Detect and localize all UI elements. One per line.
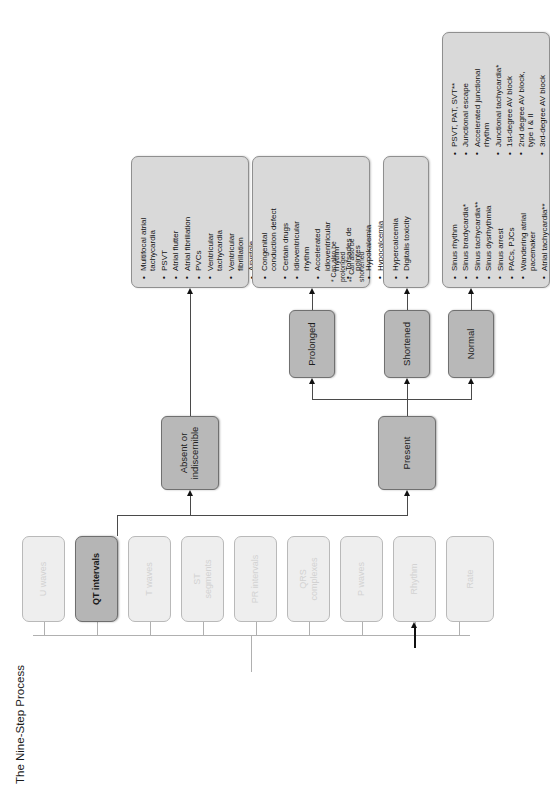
category-label: Present [402,437,413,470]
subcategory-label: Prolonged [307,322,318,365]
step-label: U waves [38,562,48,597]
step-label: QRS complexes [298,557,319,600]
step-box-qt-intervals[interactable]: QT intervals [75,536,118,622]
category-label: Absent or indiscernible [179,427,201,480]
shortened-list-line [407,292,408,310]
branch-normal-arrowhead [468,378,474,384]
prolonged-list: Congenital conduction defectCertain drug… [260,165,387,279]
footnote-shortened: ** Can also be shortened [347,192,365,282]
step-bus-line [33,635,470,636]
list-box-shortened: HypercalcemiaDigitalis toxicity [383,156,429,288]
list-item: 1st-degree AV block [505,41,514,155]
list-item: Congenital conduction defect [260,165,279,279]
step-stub [362,622,363,636]
list-item: PSVT [160,165,169,279]
list-item: Atrial flutter [171,165,180,279]
list-item: Certain drugs [281,165,290,279]
absent-list: Multifocal atrial tachycardiaPSVTAtrial … [139,165,259,279]
qt-split-line [117,515,408,516]
list-item: Junctional tachycardia* [494,41,503,155]
list-item: Sinus dysrhythmia [484,165,493,279]
step-box-pr-intervals[interactable]: PR intervals [234,536,277,622]
list-item: Idioventricular rhythm [292,165,311,279]
list-item: Hypokalemia [364,165,373,279]
step-stub [97,622,98,636]
shortened-list: HypercalcemiaDigitalis toxicity [391,165,414,279]
list-item: 3rd-degree AV block [538,41,547,155]
step-label: ST segments [192,559,213,598]
prolonged-list-arrowhead [309,288,315,294]
step-label: T waves [144,562,154,595]
list-item: PACs, PJCs [507,165,516,279]
qt-highlight-line [414,626,416,648]
normal-list-arrowhead [468,288,474,294]
step-box-qrs-complexes[interactable]: QRS complexes [287,536,330,622]
list-item: Junctional escape [461,41,470,155]
list-box-absent-or-indiscernible: Multifocal atrial tachycardiaPSVTAtrial … [131,156,249,288]
list-item: Sinus tachycardia** [473,165,482,279]
list-item: Ventricular tachycardia [206,165,225,279]
step-label: P waves [356,562,366,596]
list-item: Multifocal atrial tachycardia [139,165,158,279]
list-box-normal: Sinus rhythmSinus bradycardia*Sinus tach… [442,32,550,288]
list-item: Atrial tachycardia** [540,165,549,279]
normal-list-line [471,292,472,310]
step-label: QT intervals [91,553,101,605]
branch-absent-line [190,494,191,516]
step-box-st-segments[interactable]: ST segments [181,536,224,622]
step-stub [256,622,257,636]
step-box-rhythm[interactable]: Rhythm [393,536,436,622]
present-split-line [312,399,472,400]
list-item: Hypercalcemia [391,165,400,279]
step-box-p-waves[interactable]: P waves [340,536,383,622]
present-out-line [407,400,408,416]
list-item: Atrial fibrillation [183,165,192,279]
list-item: PVCs [194,165,203,279]
step-stub [459,622,460,636]
branch-absent-arrowhead [187,490,193,496]
branch-shortened-line [407,382,408,400]
absent-list-line [190,292,191,416]
footnotes: * Can also be prolonged ** Can also be s… [329,192,366,282]
list-item: Sinus arrest [496,165,505,279]
subcategory-box-normal[interactable]: Normal [448,310,494,378]
subcategory-box-shortened[interactable]: Shortened [384,310,430,378]
qt-out-line [117,516,118,536]
branch-normal-line [471,382,472,400]
category-box-absent-or-indiscernible[interactable]: Absent or indiscernible [161,416,219,490]
subcategory-label: Shortened [402,322,413,366]
step-box-rate[interactable]: Rate [446,536,494,622]
category-box-present[interactable]: Present [378,416,436,490]
branch-prolonged-line [312,382,313,400]
branch-present-line [407,494,408,516]
trunk-line [251,636,252,672]
absent-list-arrowhead [187,288,193,294]
step-box-t-waves[interactable]: T waves [128,536,171,622]
list-item: PSVT, PAT, SVT** [450,41,459,155]
page-title: The Nine-Step Process [14,665,26,784]
branch-shortened-arrowhead [404,378,410,384]
shortened-list-arrowhead [404,288,410,294]
list-item: 2nd degree AV block, type I & II [517,41,536,155]
step-box-u-waves[interactable]: U waves [22,536,65,622]
step-stub [150,622,151,636]
list-item: Wandering atrial pacemaker [519,165,538,279]
list-item: Ventricular fibrillation [227,165,246,279]
step-stub [44,622,45,636]
list-item: Digitalis toxicity [402,165,411,279]
branch-present-arrowhead [404,490,410,496]
subcategory-label: Normal [466,329,477,360]
step-stub [309,622,310,636]
footnote-prolonged: * Can also be prolonged [329,192,347,282]
step-label: Rhythm [409,564,419,595]
qt-arrowhead [411,622,417,628]
branch-prolonged-arrowhead [309,378,315,384]
list-item: Sinus bradycardia* [461,165,470,279]
normal-list: Sinus rhythmSinus bradycardia*Sinus tach… [450,41,550,279]
step-label: Rate [465,570,475,589]
step-label: PR intervals [250,555,260,604]
step-stub [203,622,204,636]
list-item: Sinus rhythm [450,165,459,279]
subcategory-box-prolonged[interactable]: Prolonged [289,310,335,378]
